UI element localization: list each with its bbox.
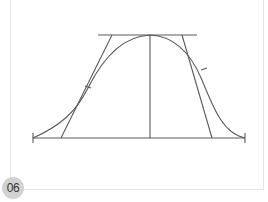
bell-curve-diagram xyxy=(0,0,268,202)
figure-number-badge: 06 xyxy=(2,177,24,199)
right-tangent-line xyxy=(182,35,212,138)
figure-caption xyxy=(34,196,266,202)
right-inflection-mark xyxy=(201,68,207,70)
bell-curve xyxy=(33,35,245,138)
